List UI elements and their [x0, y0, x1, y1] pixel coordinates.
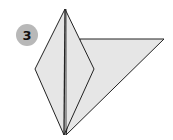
origami-diagram: [0, 0, 173, 140]
